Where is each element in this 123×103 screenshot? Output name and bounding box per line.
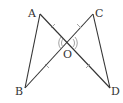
label-C: C: [95, 7, 103, 20]
angle-arc-AOB-outer: [59, 37, 61, 49]
segment-AD: [40, 14, 110, 88]
label-O: O: [63, 48, 72, 61]
angle-arc-COD-inner: [73, 39, 75, 47]
tick-mark-CO: [77, 24, 81, 28]
segment-AB: [25, 14, 40, 88]
label-B: B: [15, 85, 23, 98]
geometry-figure: A C O B D: [0, 0, 123, 103]
segment-CD: [93, 14, 110, 88]
segment-CB: [25, 14, 93, 88]
angle-arc-COD-outer: [75, 37, 77, 49]
label-D: D: [111, 85, 120, 98]
label-A: A: [27, 7, 37, 20]
angle-arc-AOB-inner: [61, 39, 63, 47]
